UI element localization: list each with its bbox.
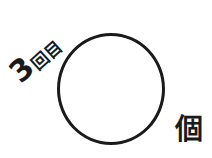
answer-circle[interactable] <box>57 33 165 145</box>
unit-label: 個 <box>175 116 203 144</box>
attempt-label: 3回目 <box>4 28 66 88</box>
